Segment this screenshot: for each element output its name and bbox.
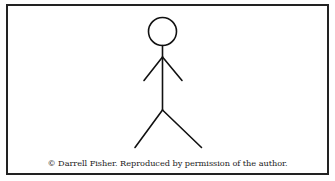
right-leg-line	[163, 110, 202, 148]
stick-figure-illustration	[0, 0, 335, 181]
copyright-caption: © Darrell Fisher. Reproduced by permissi…	[0, 158, 335, 168]
head-icon	[149, 18, 177, 46]
left-leg-line	[135, 110, 163, 148]
right-arm-line	[163, 57, 183, 81]
left-arm-line	[144, 57, 163, 81]
